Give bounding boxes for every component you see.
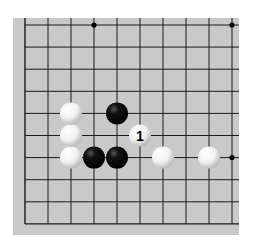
white-stone: [60, 147, 82, 169]
black-stone: [83, 147, 105, 169]
black-stone: [106, 102, 128, 124]
white-stone: [60, 125, 82, 147]
star-point-icon: [229, 22, 234, 27]
white-stone: 1: [129, 125, 151, 147]
star-point-icon: [229, 155, 234, 160]
white-stone: [60, 102, 82, 124]
white-stone: [152, 147, 174, 169]
black-stone: [106, 147, 128, 169]
move-number-label: 1: [136, 128, 144, 144]
white-stone: [198, 147, 220, 169]
star-point-icon: [91, 22, 96, 27]
go-board-grid: 1: [0, 0, 258, 249]
